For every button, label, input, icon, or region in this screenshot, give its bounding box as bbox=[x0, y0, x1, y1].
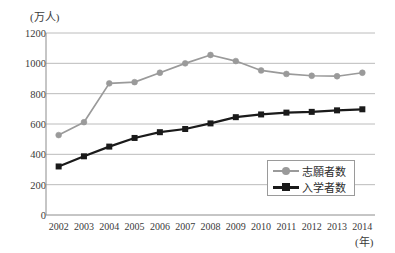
x-tick-label: 2013 bbox=[327, 221, 347, 232]
legend-item-applicants: 志願者数 bbox=[268, 163, 354, 179]
x-tick-label: 2010 bbox=[251, 221, 271, 232]
x-tick-label: 2005 bbox=[125, 221, 145, 232]
plot-area bbox=[0, 0, 395, 253]
x-tick-label: 2003 bbox=[74, 221, 94, 232]
legend-label-applicants: 志願者数 bbox=[302, 163, 346, 179]
chart-figure: (万人) 020040060080010001200 2002200320042… bbox=[0, 0, 395, 253]
x-axis-unit-label: (年) bbox=[355, 233, 373, 249]
x-tick-label: 2004 bbox=[99, 221, 119, 232]
x-tick-label: 2006 bbox=[150, 221, 170, 232]
x-tick-label: 2011 bbox=[277, 221, 297, 232]
x-tick-label: 2008 bbox=[201, 221, 221, 232]
legend-label-enrollees: 入学者数 bbox=[302, 179, 346, 195]
legend-swatch-square-icon bbox=[273, 181, 299, 193]
x-tick-label: 2012 bbox=[302, 221, 322, 232]
x-tick-label: 2009 bbox=[226, 221, 246, 232]
x-tick-label: 2002 bbox=[49, 221, 69, 232]
x-tick-label: 2007 bbox=[175, 221, 195, 232]
chart-legend: 志願者数 入学者数 bbox=[267, 160, 355, 196]
legend-swatch-circle-icon bbox=[273, 165, 299, 177]
legend-item-enrollees: 入学者数 bbox=[268, 179, 354, 195]
x-tick-label: 2014 bbox=[352, 221, 372, 232]
